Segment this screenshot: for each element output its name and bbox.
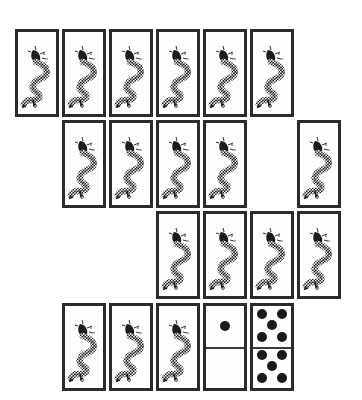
dragon-tile[interactable] [62,120,106,208]
pip-icon [277,350,287,360]
domino-top-half [206,306,244,347]
pip-icon [267,361,277,371]
domino-bottom-half [206,347,244,388]
dragon-icon [206,214,244,296]
pip-icon [277,332,287,342]
dragon-icon [300,123,338,205]
dragon-tile[interactable] [156,211,200,299]
dragon-icon [159,123,197,205]
dragon-tile[interactable] [109,303,153,391]
dragon-icon [159,32,197,114]
dragon-icon [65,123,103,205]
dragon-tile[interactable] [109,29,153,117]
dragon-tile[interactable] [156,29,200,117]
dragon-icon [253,32,291,114]
dragon-tile[interactable] [62,29,106,117]
dragon-icon [112,306,150,388]
dragon-icon [65,32,103,114]
dragon-tile[interactable] [250,211,294,299]
dragon-icon [300,214,338,296]
pip-icon [257,373,267,383]
domino-tile[interactable] [203,303,247,391]
dragon-icon [65,306,103,388]
pip-icon [257,309,267,319]
dragon-tile[interactable] [203,211,247,299]
dragon-tile[interactable] [15,29,59,117]
dragon-icon [159,214,197,296]
domino-tile[interactable] [250,303,294,391]
dragon-icon [18,32,56,114]
dragon-tile[interactable] [156,303,200,391]
game-board [0,0,362,400]
dragon-tile[interactable] [297,120,341,208]
dragon-icon [112,123,150,205]
pip-icon [267,320,277,330]
dragon-icon [206,32,244,114]
dragon-tile[interactable] [109,120,153,208]
pip-icon [257,332,267,342]
dragon-tile[interactable] [62,303,106,391]
dragon-tile[interactable] [156,120,200,208]
pip-icon [277,309,287,319]
dragon-icon [112,32,150,114]
dragon-icon [253,214,291,296]
domino-bottom-half [253,347,291,388]
pip-icon [277,373,287,383]
pip-icon [257,350,267,360]
dragon-icon [206,123,244,205]
pip-icon [220,321,230,331]
dragon-tile[interactable] [297,211,341,299]
dragon-tile[interactable] [250,29,294,117]
domino-top-half [253,306,291,347]
dragon-tile[interactable] [203,29,247,117]
dragon-tile[interactable] [203,120,247,208]
dragon-icon [159,306,197,388]
